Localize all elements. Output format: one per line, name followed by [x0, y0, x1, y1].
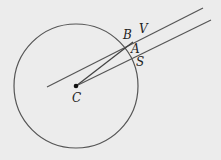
label-b: B: [122, 28, 132, 42]
label-s: S: [136, 55, 144, 69]
geometry-diagram: B V A S C: [0, 0, 221, 160]
label-c: C: [72, 91, 81, 105]
center-point: [74, 84, 79, 89]
background: [0, 0, 221, 160]
label-a: A: [130, 42, 140, 56]
label-v: V: [139, 22, 149, 36]
